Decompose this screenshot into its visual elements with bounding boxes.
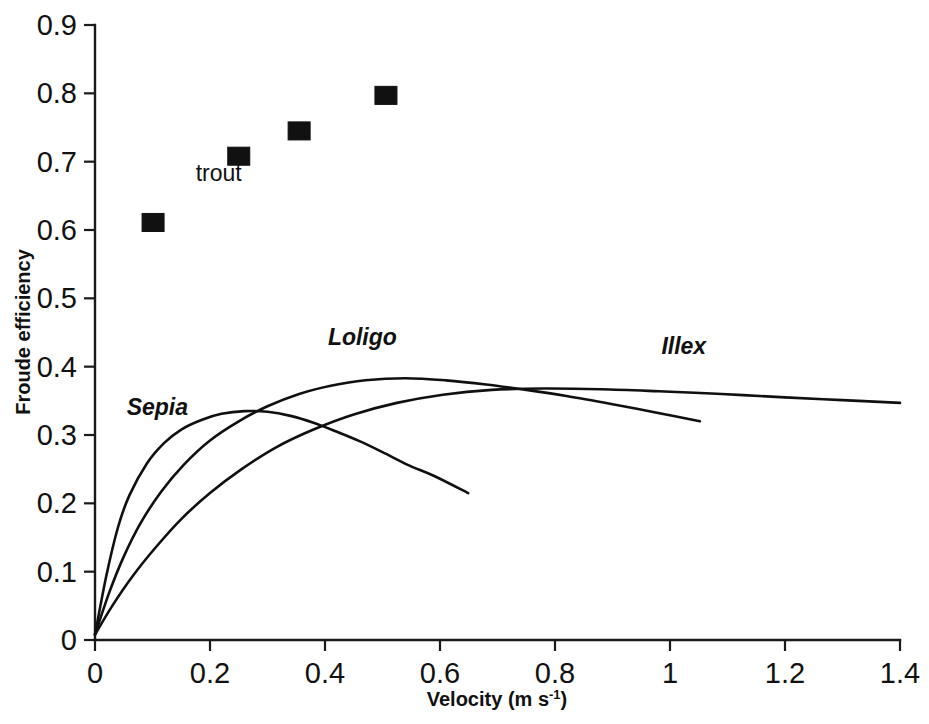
- x-tick-label: 0.4: [305, 657, 345, 689]
- y-tick-label: 0.2: [37, 487, 77, 519]
- figure-container: 00.10.20.30.40.50.60.70.80.9 00.20.40.60…: [0, 0, 929, 724]
- y-tick-label: 0.6: [37, 214, 77, 246]
- series-label-trout: trout: [196, 160, 243, 186]
- y-tick-label: 0.7: [37, 146, 77, 178]
- y-axis-tick-labels: 00.10.20.30.40.50.60.70.80.9: [37, 9, 77, 656]
- x-tick-label: 1.4: [880, 657, 920, 689]
- x-axis-title-base: Velocity (m s: [427, 688, 549, 710]
- froude-efficiency-chart: 00.10.20.30.40.50.60.70.80.9 00.20.40.60…: [0, 0, 929, 724]
- y-tick-label: 0.3: [37, 419, 77, 451]
- x-tick-label: 0.6: [420, 657, 460, 689]
- x-axis-title: Velocity (m s-1): [427, 687, 568, 710]
- series-curve-illex: [95, 389, 900, 635]
- x-axis-ticks: [95, 640, 900, 651]
- y-axis-title: Froude efficiency: [12, 248, 34, 414]
- trout-data-points: [142, 86, 397, 231]
- x-axis-title-superscript: -1: [549, 687, 561, 702]
- y-axis-ticks: [84, 25, 95, 640]
- data-point-marker: [375, 86, 397, 104]
- series-curves: [95, 378, 900, 634]
- y-tick-label: 0.5: [37, 282, 77, 314]
- y-tick-label: 0.4: [37, 351, 77, 383]
- series-annotations: troutSepiaLoligoIllex: [127, 160, 708, 420]
- data-point-marker: [288, 122, 310, 140]
- x-tick-label: 0.2: [190, 657, 230, 689]
- series-label-loligo: Loligo: [328, 324, 397, 350]
- x-tick-label: 1.2: [765, 657, 805, 689]
- series-label-illex: Illex: [661, 333, 707, 359]
- y-tick-label: 0.8: [37, 77, 77, 109]
- x-axis-title-tail: ): [561, 688, 568, 710]
- x-tick-label: 1: [662, 657, 678, 689]
- x-tick-label: 0.8: [535, 657, 575, 689]
- x-tick-label: 0: [87, 657, 103, 689]
- y-tick-label: 0: [61, 624, 77, 656]
- data-point-marker: [142, 213, 164, 231]
- series-label-sepia: Sepia: [127, 394, 189, 420]
- plot-frame: [95, 25, 900, 640]
- y-tick-label: 0.1: [37, 556, 77, 588]
- x-axis-tick-labels: 00.20.40.60.811.21.4: [87, 657, 920, 689]
- y-tick-label: 0.9: [37, 9, 77, 41]
